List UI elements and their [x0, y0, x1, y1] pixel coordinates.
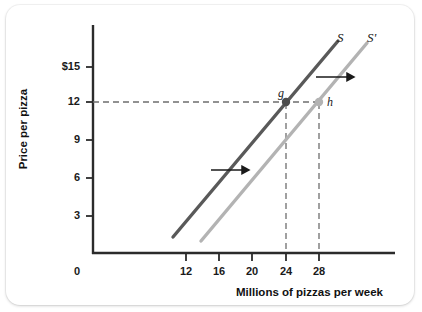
- x-tick-label-20: 20: [241, 265, 263, 277]
- x-tick-label-12: 12: [175, 265, 197, 277]
- curve-label-S: S: [337, 30, 344, 46]
- figure-card: $15 12 9 6 3 0 12 16 20 24 28 Millions o…: [6, 5, 414, 305]
- point-label-g: g: [278, 86, 284, 101]
- curve-label-S-prime: S': [367, 30, 376, 46]
- y-axis-title: Price per pizza: [17, 84, 29, 174]
- x-tick-label-16: 16: [208, 265, 230, 277]
- y-tick-label-15: $15: [46, 60, 80, 72]
- y-tick-label-3: 3: [46, 209, 80, 221]
- supply-curve-S: [173, 41, 338, 237]
- x-tick-label-28: 28: [308, 265, 330, 277]
- dashed-guides: [93, 102, 321, 252]
- supply-curve-S-prime: [201, 43, 367, 241]
- x-tick-label-24: 24: [275, 265, 297, 277]
- y-tick-label-6: 6: [46, 171, 80, 183]
- point-marker-h: [315, 98, 323, 106]
- y-tick-label-9: 9: [46, 133, 80, 145]
- x-tick-label-0: 0: [66, 265, 88, 277]
- x-axis-title: Millions of pizzas per week: [236, 286, 383, 298]
- y-tick-label-12: 12: [46, 95, 80, 107]
- point-label-h: h: [327, 95, 333, 110]
